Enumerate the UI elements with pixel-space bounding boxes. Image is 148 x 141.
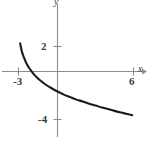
plot-canvas [0,0,148,141]
y-axis-name-label: y [54,0,58,7]
graph-figure: -3 6 2 -4 x y [0,0,148,141]
y-axis-tick-label-neg4: -4 [38,114,47,125]
x-axis-arrowhead [142,69,147,75]
y-axis-tick-label-2: 2 [41,41,47,52]
x-axis-name-label: x [138,64,142,74]
x-axis-tick-label-neg3: -3 [13,76,22,87]
plotted-curve [20,43,132,115]
x-axis-tick-label-6: 6 [129,76,135,87]
